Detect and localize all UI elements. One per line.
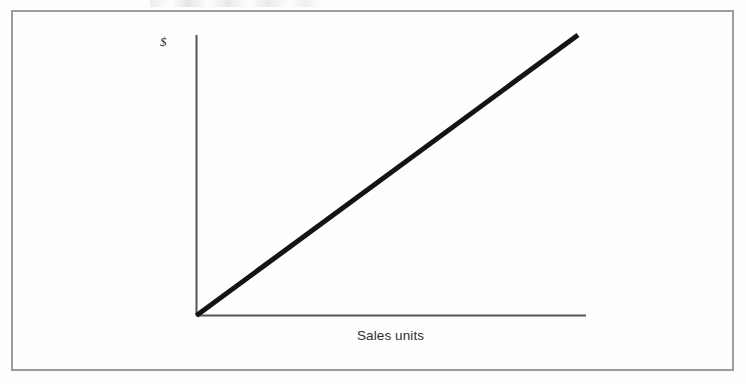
chart-plot-area xyxy=(0,0,746,384)
x-axis-label: Sales units xyxy=(357,328,424,343)
revenue-series-line xyxy=(197,35,579,316)
figure-page: $ Sales units xyxy=(0,0,746,384)
y-axis-label: $ xyxy=(160,34,167,50)
